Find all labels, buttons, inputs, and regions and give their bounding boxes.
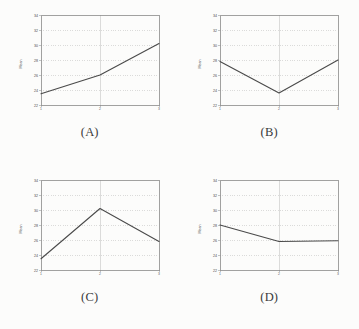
x-tick-label: 3 — [337, 107, 339, 111]
plot-area-a: Mean 22242628303234123 — [17, 10, 163, 118]
y-tick-label: 28 — [213, 59, 217, 63]
y-tick-label: 24 — [213, 89, 217, 93]
panel-caption-b: (B) — [261, 125, 278, 140]
y-tick-label: 24 — [34, 253, 38, 257]
y-tick-label: 22 — [34, 268, 38, 272]
y-tick-label: 34 — [34, 178, 38, 182]
y-tick-label: 32 — [34, 29, 38, 33]
y-axis-label-a: Mean — [18, 60, 22, 69]
y-tick-label: 34 — [213, 14, 217, 18]
y-axis-label-d: Mean — [198, 224, 202, 233]
line-chart-a: 22242628303234123 — [17, 10, 163, 118]
chart-panel-d: Mean 22242628303234123 (D) — [180, 165, 359, 329]
y-tick-label: 26 — [213, 74, 217, 78]
x-tick-label: 2 — [278, 107, 280, 111]
panel-caption-c: (C) — [81, 290, 98, 305]
panel-caption-d: (D) — [260, 290, 278, 305]
line-chart-b: 22242628303234123 — [196, 10, 342, 118]
y-axis-label-c: Mean — [18, 224, 22, 233]
figure-sheet: Mean 22242628303234123 (A) Mean 22242628… — [0, 0, 359, 329]
chart-panel-b: Mean 22242628303234123 (B) — [180, 0, 359, 165]
y-tick-label: 24 — [213, 253, 217, 257]
y-tick-label: 26 — [34, 238, 38, 242]
x-tick-label: 3 — [337, 272, 339, 276]
x-tick-label: 1 — [219, 272, 221, 276]
plot-area-c: Mean 22242628303234123 — [17, 175, 163, 283]
y-tick-label: 22 — [213, 104, 217, 108]
y-tick-label: 28 — [34, 59, 38, 63]
x-tick-label: 1 — [219, 107, 221, 111]
y-tick-label: 22 — [34, 104, 38, 108]
y-tick-label: 32 — [213, 193, 217, 197]
x-tick-label: 2 — [99, 272, 101, 276]
y-tick-label: 26 — [34, 74, 38, 78]
x-tick-label: 2 — [278, 272, 280, 276]
plot-area-d: Mean 22242628303234123 — [196, 175, 342, 283]
y-tick-label: 22 — [213, 268, 217, 272]
y-axis-label-b: Mean — [198, 60, 202, 69]
y-tick-label: 30 — [213, 44, 217, 48]
y-tick-label: 24 — [34, 89, 38, 93]
line-chart-c: 22242628303234123 — [17, 175, 163, 283]
x-tick-label: 2 — [99, 107, 101, 111]
y-tick-label: 32 — [34, 193, 38, 197]
chart-panel-c: Mean 22242628303234123 (C) — [0, 165, 180, 329]
panel-caption-a: (A) — [81, 125, 99, 140]
y-tick-label: 28 — [34, 223, 38, 227]
x-tick-label: 3 — [158, 107, 160, 111]
chart-panel-a: Mean 22242628303234123 (A) — [0, 0, 180, 165]
x-tick-label: 1 — [40, 107, 42, 111]
y-tick-label: 28 — [213, 223, 217, 227]
line-chart-d: 22242628303234123 — [196, 175, 342, 283]
x-tick-label: 1 — [40, 272, 42, 276]
y-tick-label: 32 — [213, 29, 217, 33]
y-tick-label: 30 — [34, 208, 38, 212]
y-tick-label: 30 — [213, 208, 217, 212]
y-tick-label: 34 — [213, 178, 217, 182]
panel-grid: Mean 22242628303234123 (A) Mean 22242628… — [0, 0, 359, 329]
y-tick-label: 34 — [34, 14, 38, 18]
y-tick-label: 26 — [213, 238, 217, 242]
y-tick-label: 30 — [34, 44, 38, 48]
plot-area-b: Mean 22242628303234123 — [196, 10, 342, 118]
x-tick-label: 3 — [158, 272, 160, 276]
